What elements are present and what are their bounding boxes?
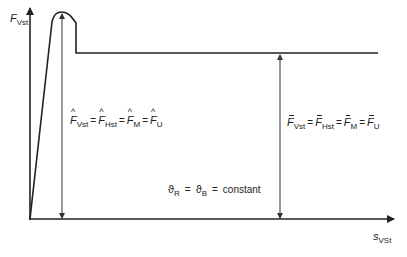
equals-sign: = — [359, 117, 365, 128]
mean-term-symbol: F — [367, 116, 374, 128]
theta-b-symbol: ϑ — [196, 183, 202, 195]
peak-term-symbol: F — [98, 114, 105, 126]
y-axis-symbol: F — [10, 12, 17, 24]
theta-b-subscript: B — [202, 189, 207, 198]
mean-term-subscript: Hst — [322, 122, 334, 131]
peak-term-symbol: F — [150, 114, 157, 126]
peak-term-subscript: Hst — [105, 120, 117, 129]
equals-sign: = — [307, 117, 313, 128]
y-axis-subscript: Vst — [17, 18, 29, 27]
temperature-condition: ϑR=ϑB=constant — [168, 183, 261, 195]
peak-term-subscript: M — [133, 120, 140, 129]
equals-sign: = — [119, 115, 125, 126]
mean-force-equation: FVst=FHst=FM=FU — [287, 116, 379, 128]
peak-term-subscript: Vst — [77, 120, 89, 129]
equals-sign: = — [142, 115, 148, 126]
mean-term-subscript: M — [350, 122, 357, 131]
mean-term-subscript: Vst — [294, 122, 306, 131]
constant-label: constant — [223, 184, 261, 195]
mean-term-symbol: F — [315, 116, 322, 128]
mean-term-subscript: U — [374, 122, 380, 131]
equals-sign: = — [185, 184, 191, 195]
y-axis-label: FVst — [10, 12, 28, 24]
peak-term-subscript: U — [157, 120, 163, 129]
equals-sign: = — [212, 184, 218, 195]
peak-term-symbol: F — [70, 114, 77, 126]
force-displacement-diagram — [0, 0, 407, 257]
theta-r-subscript: R — [174, 189, 180, 198]
mean-term-symbol: F — [287, 116, 294, 128]
peak-force-equation: FVst=FHst=FM=FU — [70, 114, 162, 126]
x-axis-subscript: VSt — [379, 236, 392, 245]
equals-sign: = — [90, 115, 96, 126]
x-axis-label: sVSt — [373, 230, 391, 242]
equals-sign: = — [336, 117, 342, 128]
x-axis-symbol: s — [373, 230, 379, 242]
